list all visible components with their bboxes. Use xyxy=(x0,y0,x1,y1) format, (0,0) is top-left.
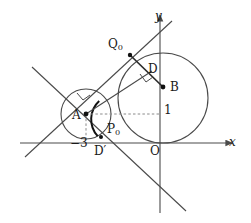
tangent-line-upper xyxy=(25,21,172,157)
tick-label-one: 1 xyxy=(164,104,172,116)
geometry-figure: y x O −3 1 A B Q0 P0 D D′ xyxy=(0,0,251,223)
x-axis-label: x xyxy=(229,136,236,148)
point-label-D-prime: D′ xyxy=(94,145,106,157)
point-A-dot xyxy=(84,112,89,117)
point-P0-dot xyxy=(99,135,103,139)
point-Q0-dot xyxy=(128,53,132,57)
circle-B xyxy=(118,53,208,143)
point-label-Q0: Q0 xyxy=(108,38,123,51)
origin-label: O xyxy=(150,145,160,157)
point-label-D: D xyxy=(148,63,158,75)
y-axis-label: y xyxy=(155,10,162,22)
point-label-P0: P0 xyxy=(107,123,120,136)
figure-canvas xyxy=(0,0,251,223)
tick-label-neg-three: −3 xyxy=(70,137,88,149)
point-label-B: B xyxy=(170,81,179,93)
point-label-A: A xyxy=(72,109,81,121)
point-B-dot xyxy=(161,85,166,90)
